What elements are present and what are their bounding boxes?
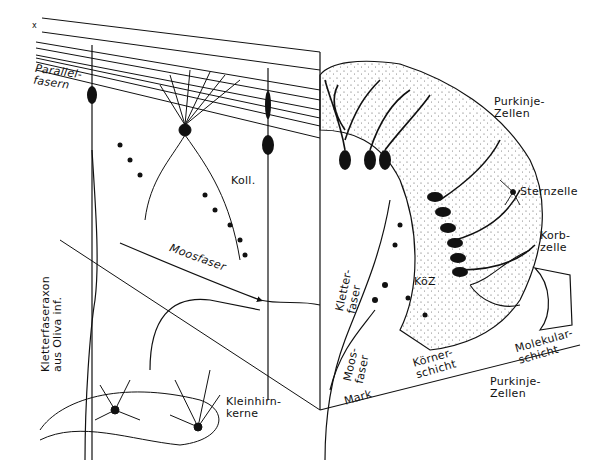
cerebellar-nuclei	[40, 370, 220, 445]
label-koll: Koll.	[231, 175, 256, 187]
label-purkinje-zellen-top: Purkinje- Zellen	[494, 96, 545, 120]
label-korbzelle: Korb- zelle	[540, 230, 570, 254]
corner-mark: x	[32, 21, 37, 30]
label-kletterfaseraxon: Kletterfaseraxon aus Oliva inf.	[40, 276, 64, 372]
label-koz: KöZ	[414, 276, 436, 288]
label-kleinhirnkerne: Kleinhirn- kerne	[226, 396, 281, 420]
granule-cells	[118, 143, 428, 318]
label-purkinje-zellen-bottom: Purkinje- Zellen	[490, 376, 541, 400]
label-sternzelle: Sternzelle	[520, 186, 578, 198]
